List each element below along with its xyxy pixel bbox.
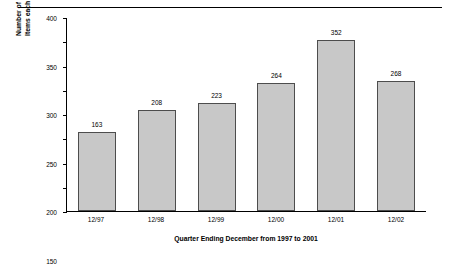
bar-value-label: 208 [127,99,187,107]
bar-value-label: 268 [366,70,426,78]
x-tick-label: 12/98 [137,216,175,223]
y-tick-label: 150 [46,257,57,264]
bar-group: 223 [198,18,236,211]
x-axis-tick-labels: 12/97 12/98 12/99 12/00 12/01 12/02 [66,216,426,223]
bar-value-label: 163 [67,121,127,129]
y-tick-label: 300 [46,112,57,119]
bar-group: 352 [317,18,355,211]
bar-group: 208 [138,18,176,211]
x-tick-label: 12/01 [317,216,355,223]
bar-value-label: 352 [306,29,366,37]
y-tick-label: 250 [46,160,57,167]
y-tick-label: 350 [46,63,57,70]
x-tick-label: 12/00 [257,216,295,223]
y-tick-mark: 0 [63,212,67,213]
y-tick-label: 400 [46,15,57,22]
y-tick-label: 200 [46,209,57,216]
x-tick-label: 12/97 [77,216,115,223]
chart-container: 050100150200250300350400 163 208 223 264… [0,0,454,265]
plot-area: 050100150200250300350400 163 208 223 264… [66,18,426,212]
bar-group: 268 [377,18,415,211]
bar-value-label: 264 [246,72,306,80]
y-axis-title: Number of companies reporting Non-Recurr… [14,0,32,36]
bar-value-label: 223 [187,92,247,100]
bar [257,83,295,211]
bar-group: 264 [257,18,295,211]
x-axis-title: Quarter Ending December from 1997 to 200… [66,235,426,242]
x-tick-label: 12/99 [197,216,235,223]
bar [78,132,116,211]
x-tick-label: 12/02 [377,216,415,223]
bar-series: 163 208 223 264 352 268 [67,18,426,211]
bar [317,40,355,211]
bar [198,103,236,211]
bar [377,81,415,211]
bar-group: 163 [78,18,116,211]
header-divider [18,7,442,8]
bar [138,110,176,211]
